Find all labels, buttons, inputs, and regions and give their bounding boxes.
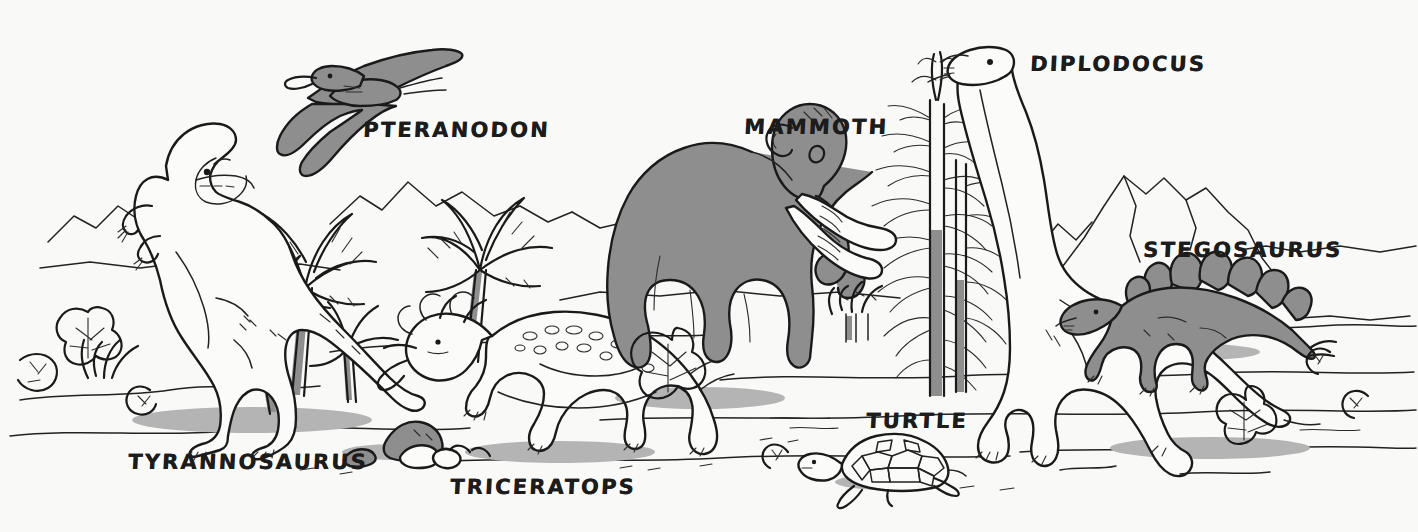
label-triceratops: TRICERATOPS	[449, 477, 636, 498]
label-turtle: TURTLE	[865, 411, 968, 432]
label-stegosaurus: STEGOSAURUS	[1142, 240, 1342, 261]
prehistoric-scene-illustration: PTERANODON MAMMOTH DIPLODOCUS STEGOSAURU…	[0, 0, 1418, 532]
mammoth-figure	[607, 104, 896, 368]
label-diplodocus: DIPLODOCUS	[1029, 54, 1206, 75]
label-tyrannosaurus: TYRANNOSAURUS	[127, 452, 368, 473]
label-mammoth: MAMMOTH	[743, 117, 888, 138]
label-pteranodon: PTERANODON	[362, 120, 550, 141]
turtle-figure	[798, 434, 966, 508]
pteranodon-figure	[277, 49, 462, 176]
stegosaurus-figure	[1056, 252, 1336, 396]
